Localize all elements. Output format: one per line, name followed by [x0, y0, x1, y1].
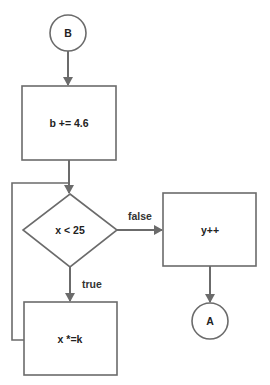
connector-a[interactable]: A [192, 303, 228, 339]
process-y-inc[interactable]: y++ [163, 193, 256, 266]
connector-b-label: B [64, 27, 72, 39]
connector-b[interactable]: B [50, 15, 86, 51]
decision-x-lt-25[interactable]: x < 25 [23, 194, 117, 267]
process-b-add[interactable]: b += 4.6 [22, 86, 116, 160]
process-b-add-label: b += 4.6 [49, 117, 88, 129]
flowchart-canvas: B b += 4.6 x < 25 false y++ A true x *=k [0, 0, 270, 385]
process-x-mul[interactable]: x *=k [24, 302, 117, 375]
process-y-inc-label: y++ [201, 224, 219, 236]
edge-false-label: false [128, 210, 152, 222]
edge-true-label: true [82, 278, 102, 290]
process-x-mul-label: x *=k [58, 333, 83, 345]
decision-label: x < 25 [55, 224, 85, 236]
connector-a-label: A [206, 315, 214, 327]
